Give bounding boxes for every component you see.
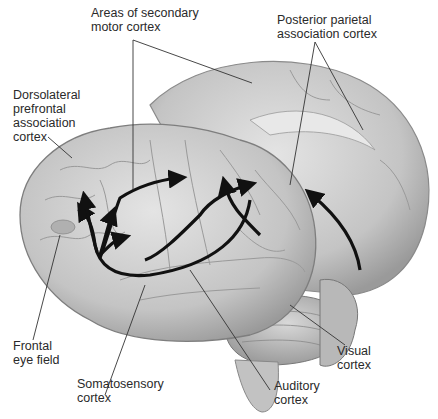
label-visual-cortex: Visual cortex — [337, 344, 371, 372]
brain-diagram: Areas of secondary motor cortex Posterio… — [0, 0, 438, 419]
label-dorsolateral-prefrontal-cortex: Dorsolateral prefrontal association cort… — [13, 88, 80, 144]
frontal-eye-field-region — [51, 220, 75, 234]
label-posterior-parietal-cortex: Posterior parietal association cortex — [277, 13, 377, 41]
label-somatosensory-cortex: Somatosensory cortex — [77, 377, 164, 405]
label-secondary-motor-cortex: Areas of secondary motor cortex — [91, 6, 199, 34]
brain-illustration — [0, 0, 438, 419]
label-frontal-eye-field: Frontal eye field — [13, 339, 60, 367]
label-auditory-cortex: Auditory cortex — [274, 379, 320, 407]
